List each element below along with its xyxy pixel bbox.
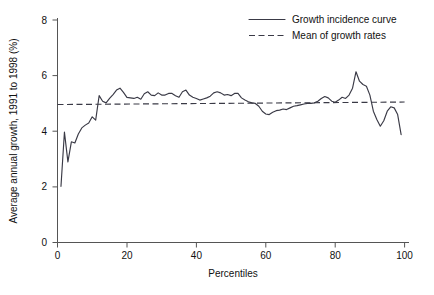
growth-incidence-curve-figure: 0 2 4 6 8 0 20 40 60 80 100 Percentiles …	[0, 0, 434, 295]
legend-label-mean-of-growth-rates: Mean of growth rates	[292, 30, 386, 41]
x-tick-label-40: 40	[191, 250, 203, 261]
y-tick-label-8: 8	[41, 15, 47, 26]
y-tick-label-2: 2	[41, 181, 47, 192]
x-tick-label-100: 100	[396, 250, 413, 261]
y-axis-title: Average annual growth, 1991 to 1998 (%)	[8, 39, 19, 224]
x-axis-ticks	[58, 243, 405, 248]
x-tick-label-60: 60	[260, 250, 272, 261]
growth-incidence-curve-line	[61, 72, 401, 187]
y-tick-label-4: 4	[41, 126, 47, 137]
legend: Growth incidence curve Mean of growth ra…	[249, 14, 397, 41]
chart-canvas: 0 2 4 6 8 0 20 40 60 80 100 Percentiles …	[0, 0, 434, 295]
mean-of-growth-rates-line	[58, 102, 405, 105]
x-tick-label-80: 80	[330, 250, 342, 261]
x-tick-label-0: 0	[55, 250, 61, 261]
x-axis-title: Percentiles	[208, 268, 257, 279]
y-axis-ticks	[53, 20, 58, 243]
y-tick-label-6: 6	[41, 70, 47, 81]
legend-label-growth-incidence-curve: Growth incidence curve	[292, 14, 397, 25]
x-tick-label-20: 20	[121, 250, 133, 261]
y-tick-label-0: 0	[41, 237, 47, 248]
